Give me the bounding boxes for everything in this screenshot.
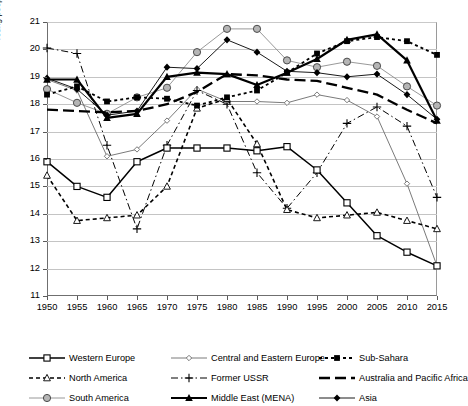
data-point — [163, 84, 170, 91]
legend-item-north-america[interactable]: North America — [28, 369, 127, 386]
legend-label: Sub-Sahara — [359, 353, 408, 363]
y-tick-label: 11 — [18, 291, 40, 300]
legend-label: Middle East (MENA) — [211, 393, 294, 403]
data-point — [374, 233, 380, 239]
legend-item-asia[interactable]: Asia — [318, 389, 377, 406]
data-point — [373, 62, 380, 69]
x-tick-label: 1970 — [150, 303, 184, 312]
data-point — [334, 394, 341, 401]
y-tick-label: 20 — [18, 44, 40, 53]
data-point — [254, 148, 260, 154]
y-tick-mark — [43, 77, 47, 78]
data-point — [43, 44, 51, 52]
x-tick-label: 1955 — [60, 303, 94, 312]
legend-swatch — [28, 391, 66, 405]
data-point — [403, 83, 410, 90]
data-point — [344, 73, 351, 80]
legend-item-south-america[interactable]: South America — [28, 389, 129, 406]
x-tick-mark — [77, 296, 78, 300]
y-axis-title: Young people aged 15–24 years as proport… — [0, 0, 2, 42]
data-point — [404, 249, 410, 255]
x-tick-label: 1950 — [30, 303, 64, 312]
data-point — [254, 49, 261, 56]
y-tick-mark — [43, 159, 47, 160]
data-point — [314, 92, 319, 97]
x-tick-label: 2010 — [390, 303, 424, 312]
y-tick-mark — [43, 269, 47, 270]
data-point — [344, 200, 350, 206]
data-point — [44, 92, 50, 98]
series-former-ussr — [43, 44, 441, 233]
data-point — [193, 49, 200, 56]
data-point — [254, 88, 260, 94]
data-point — [164, 64, 171, 71]
data-point — [404, 217, 411, 223]
y-tick-mark — [43, 241, 47, 242]
data-point — [44, 172, 51, 178]
legend-item-former-ussr[interactable]: Former USSR — [170, 369, 269, 386]
legend-item-central-and-eastern-europe[interactable]: Central and Eastern Europe — [170, 349, 325, 366]
data-point — [343, 119, 351, 127]
legend-swatch — [28, 351, 66, 365]
y-tick-label: 13 — [18, 236, 40, 245]
y-tick-label: 17 — [18, 127, 40, 136]
series-central-and-eastern-europe — [44, 77, 439, 269]
legend-swatch — [28, 371, 66, 385]
data-point — [403, 122, 411, 130]
y-tick-mark — [43, 22, 47, 23]
data-point — [434, 263, 440, 269]
data-point — [164, 183, 171, 189]
x-tick-mark — [437, 296, 438, 300]
data-point — [164, 145, 170, 151]
legend-item-middle-east-mena[interactable]: Middle East (MENA) — [170, 389, 294, 406]
x-tick-mark — [347, 296, 348, 300]
legend-swatch — [318, 371, 356, 385]
legend-label: Former USSR — [211, 373, 269, 383]
data-point — [104, 194, 110, 200]
data-point — [194, 145, 200, 151]
x-tick-mark — [377, 296, 378, 300]
x-tick-mark — [317, 296, 318, 300]
x-tick-mark — [257, 296, 258, 300]
data-point — [404, 181, 409, 186]
data-point — [133, 225, 141, 233]
data-point — [73, 49, 81, 57]
legend-item-western-europe[interactable]: Western Europe — [28, 349, 135, 366]
legend-item-australia-and-pacific-africa[interactable]: Australia and Pacific Africa — [318, 369, 468, 386]
legend-swatch — [170, 351, 208, 365]
legend-item-sub-sahara[interactable]: Sub-Sahara — [318, 349, 408, 366]
y-tick-mark — [43, 186, 47, 187]
data-point — [314, 214, 321, 220]
chart-legend: Western EuropeCentral and Eastern Europe… — [0, 347, 454, 406]
data-point — [104, 154, 109, 159]
x-tick-mark — [137, 296, 138, 300]
y-tick-label: 15 — [18, 181, 40, 190]
data-point — [343, 58, 350, 65]
data-point — [185, 373, 193, 381]
data-point — [224, 145, 230, 151]
x-tick-mark — [47, 296, 48, 300]
x-tick-label: 1980 — [210, 303, 244, 312]
x-tick-label: 2005 — [360, 303, 394, 312]
legend-swatch — [318, 391, 356, 405]
legend-swatch — [170, 371, 208, 385]
x-tick-mark — [197, 296, 198, 300]
data-point — [404, 38, 410, 44]
data-point — [103, 141, 111, 149]
x-tick-mark — [407, 296, 408, 300]
data-point — [284, 144, 290, 150]
x-tick-label: 1965 — [120, 303, 154, 312]
plot-area — [47, 22, 437, 296]
data-point — [73, 99, 80, 106]
y-tick-label: 18 — [18, 99, 40, 108]
y-tick-mark — [43, 214, 47, 215]
y-tick-label: 14 — [18, 209, 40, 218]
data-point — [44, 354, 50, 360]
x-tick-label: 2015 — [420, 303, 454, 312]
y-tick-label: 21 — [18, 17, 40, 26]
legend-label: Central and Eastern Europe — [211, 353, 325, 363]
data-point — [74, 183, 80, 189]
data-point — [194, 103, 200, 109]
y-tick-mark — [43, 49, 47, 50]
y-tick-mark — [43, 104, 47, 105]
